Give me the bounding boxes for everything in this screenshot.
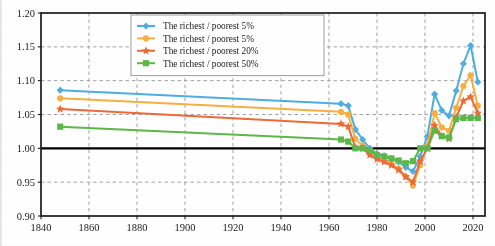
legend-label: The richest / poorest 20% xyxy=(163,46,259,56)
page-scan-edge xyxy=(0,0,3,246)
data-point-square xyxy=(417,145,423,151)
data-point-square xyxy=(453,116,459,122)
x-tick-label: 2000 xyxy=(415,222,436,233)
data-point-square xyxy=(338,136,344,142)
data-point-square xyxy=(424,145,430,151)
data-point-square xyxy=(374,152,380,158)
data-point-circle xyxy=(57,95,63,101)
x-tick-label: 1860 xyxy=(79,222,100,233)
data-point-square xyxy=(367,147,373,153)
y-tick-label: 1.05 xyxy=(17,109,35,120)
data-point-square xyxy=(468,115,474,121)
y-tick-label: 0.90 xyxy=(17,211,35,222)
data-point-square xyxy=(388,155,394,161)
x-tick-label: 1840 xyxy=(31,222,52,233)
data-point-square xyxy=(432,128,438,134)
data-point-square xyxy=(439,133,445,139)
data-point-square xyxy=(345,138,351,144)
y-tick-label: 0.95 xyxy=(17,177,35,188)
line-chart: 1840186018801900192019401960198020002020… xyxy=(0,0,495,246)
x-tick-label: 1900 xyxy=(175,222,196,233)
data-point-square xyxy=(57,124,63,130)
data-point-square xyxy=(410,158,416,164)
legend-label: The richest / poorest 5% xyxy=(163,34,254,44)
chart-container: 1840186018801900192019401960198020002020… xyxy=(0,0,495,246)
data-point-circle xyxy=(439,124,445,130)
legend-label: The richest / poorest 5% xyxy=(163,21,254,31)
y-tick-label: 1.15 xyxy=(17,41,35,52)
data-point-square xyxy=(460,115,466,121)
legend-label: The richest / poorest 50% xyxy=(163,59,259,69)
data-point-circle xyxy=(432,110,438,116)
x-tick-label: 2020 xyxy=(463,222,484,233)
data-point-circle xyxy=(460,83,466,89)
data-point-circle xyxy=(345,111,351,117)
x-tick-label: 1920 xyxy=(223,222,244,233)
legend: The richest / poorest 5%The richest / po… xyxy=(131,15,324,76)
data-point-square xyxy=(381,153,387,159)
y-tick-label: 1.00 xyxy=(17,143,35,154)
data-point-square xyxy=(360,145,366,151)
y-tick-label: 1.20 xyxy=(17,8,35,19)
x-tick-label: 1940 xyxy=(271,222,292,233)
data-point-square xyxy=(143,60,149,66)
data-point-square xyxy=(352,145,358,151)
data-point-square xyxy=(396,157,402,163)
data-point-circle xyxy=(468,72,474,78)
data-point-square xyxy=(475,115,481,121)
data-point-circle xyxy=(143,35,149,41)
data-point-square xyxy=(446,134,452,140)
data-point-square xyxy=(403,160,409,166)
y-tick-label: 1.10 xyxy=(17,75,35,86)
x-tick-label: 1960 xyxy=(319,222,340,233)
data-point-circle xyxy=(338,109,344,115)
x-tick-label: 1980 xyxy=(367,222,388,233)
x-tick-label: 1880 xyxy=(127,222,148,233)
